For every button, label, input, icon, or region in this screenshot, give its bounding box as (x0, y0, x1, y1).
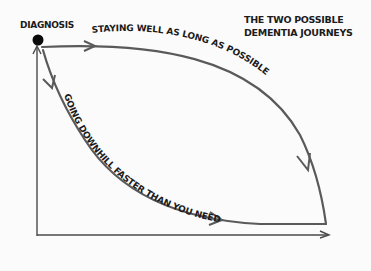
x-axis (37, 231, 329, 238)
diagram-graphics: STAYING WELL AS LONG AS POSSIBLE GOING D… (0, 0, 371, 271)
diagnosis-label: DIAGNOSIS (20, 20, 74, 30)
title-line-1: THE TWO POSSIBLE (244, 13, 353, 26)
title-line-2: DEMENTIA JOURNEYS (244, 26, 353, 39)
dementia-journeys-diagram: STAYING WELL AS LONG AS POSSIBLE GOING D… (0, 0, 371, 271)
diagnosis-dot (33, 35, 44, 46)
y-axis (33, 46, 41, 236)
diagram-title: THE TWO POSSIBLE DEMENTIA JOURNEYS (244, 13, 353, 39)
lower-journey-label: GOING DOWNHILL FASTER THAN YOU NEED (62, 92, 221, 224)
